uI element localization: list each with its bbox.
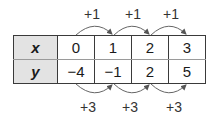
y-value: 5	[169, 60, 206, 84]
y-value: −1	[95, 60, 132, 84]
x-value: 0	[58, 36, 95, 60]
top-change-label: +1	[84, 6, 100, 22]
top-change-label: +1	[163, 6, 179, 22]
function-table: x 0 1 2 3 y −4 −1 2 5	[13, 35, 206, 84]
y-header: y	[14, 60, 58, 84]
y-value: −4	[58, 60, 95, 84]
x-value: 1	[95, 36, 132, 60]
top-change-label: +1	[125, 6, 141, 22]
bottom-arrow-icon	[151, 84, 186, 93]
bottom-change-label: +3	[80, 99, 96, 115]
bottom-change-label: +3	[166, 99, 182, 115]
x-value: 2	[132, 36, 169, 60]
bottom-change-label: +3	[122, 99, 138, 115]
x-header: x	[14, 36, 58, 60]
top-arrow-icon	[151, 26, 186, 35]
x-value: 3	[169, 36, 206, 60]
y-value: 2	[132, 60, 169, 84]
top-arrow-icon	[76, 26, 112, 35]
top-arrow-icon	[114, 26, 149, 35]
bottom-arrow-icon	[114, 84, 149, 93]
bottom-arrow-icon	[76, 84, 112, 93]
y-row: y −4 −1 2 5	[14, 60, 206, 84]
x-row: x 0 1 2 3	[14, 36, 206, 60]
